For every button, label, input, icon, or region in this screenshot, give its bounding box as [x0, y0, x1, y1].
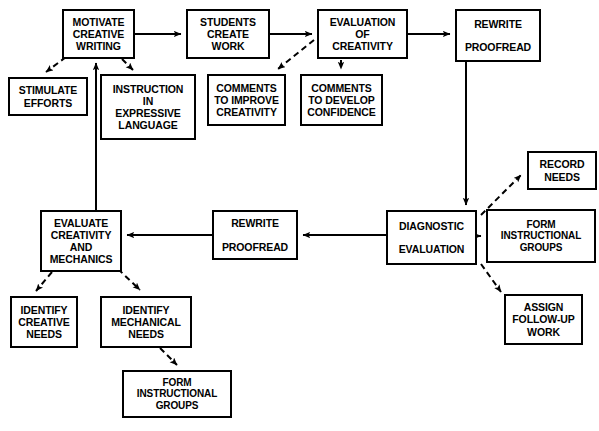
- edge-identify-mech-to-form-groups: [160, 348, 177, 365]
- node-label-line: NEEDS: [128, 328, 164, 340]
- node-label-line: INSTRUCTIONAL: [137, 388, 217, 400]
- edge-motivate-to-instruction: [122, 59, 133, 70]
- node-diagnostic[interactable]: DIAGNOSTICEVALUATION: [386, 210, 477, 265]
- node-label-line: STIMULATE: [19, 84, 77, 96]
- node-label-line: EFFORTS: [24, 97, 72, 109]
- node-label-line: CREATIVITY: [51, 229, 112, 241]
- node-form_groups_b[interactable]: FORMINSTRUCTIONALGROUPS: [122, 370, 232, 418]
- node-label-line: MOTIVATE: [73, 16, 125, 28]
- node-label-line: IN: [143, 95, 153, 107]
- edge-evaluate-to-identify-creative: [36, 272, 52, 291]
- node-assign_work[interactable]: ASSIGNFOLLOW-UPWORK: [504, 294, 583, 345]
- node-label-line: TO IMPROVE: [214, 94, 279, 106]
- flowchart-diagram: MOTIVATECREATIVEWRITINGSTIMULATEEFFORTSI…: [0, 0, 599, 431]
- edge-diagnostic-to-assign-work: [481, 264, 501, 292]
- node-label-line: WRITING: [76, 40, 121, 52]
- node-evaluate_cm[interactable]: EVALUATECREATIVITYANDMECHANICS: [40, 210, 122, 272]
- node-label-line: IDENTIFY: [20, 304, 67, 316]
- node-label-line: EVALUATION: [399, 243, 465, 255]
- edge-evaluation-to-comments-improve: [278, 40, 314, 69]
- node-label-line: FOLLOW-UP: [512, 313, 574, 325]
- node-evaluation[interactable]: EVALUATIONOFCREATIVITY: [317, 9, 408, 59]
- node-label-line: INSTRUCTIONAL: [501, 230, 581, 242]
- node-label-line: PROOFREAD: [222, 241, 288, 253]
- node-label-line: CREATIVE: [73, 28, 125, 40]
- node-label-line: STUDENTS: [200, 16, 256, 28]
- node-label-line: EVALUATE: [54, 217, 108, 229]
- node-label-line: PROOFREAD: [465, 41, 531, 53]
- node-label-line: REWRITE: [474, 18, 522, 30]
- node-label-line: COMMENTS: [311, 82, 371, 94]
- edge-motivate-to-stimulate: [46, 57, 66, 72]
- edge-evaluate-to-identify-mech: [118, 269, 140, 290]
- node-label-line: GROUPS: [520, 242, 563, 254]
- node-label-line: FORM: [526, 219, 555, 231]
- node-label-line: NEEDS: [544, 171, 580, 183]
- node-comments_develop[interactable]: COMMENTSTO DEVELOPCONFIDENCE: [300, 74, 383, 126]
- node-label-line: OF: [355, 28, 369, 40]
- node-label-line: TO DEVELOP: [308, 94, 375, 106]
- node-instruction[interactable]: INSTRUCTIONINEXPRESSIVELANGUAGE: [100, 74, 196, 140]
- node-stimulate[interactable]: STIMULATEEFFORTS: [8, 77, 88, 116]
- node-label-line: CREATIVITY: [216, 106, 277, 118]
- node-label-line: ASSIGN: [524, 301, 564, 313]
- node-label-line: COMMENTS: [216, 82, 276, 94]
- node-label-line: AND: [70, 241, 92, 253]
- node-label-line: RECORD: [540, 158, 585, 170]
- node-identify_mech[interactable]: IDENTIFYMECHANICALNEEDS: [100, 296, 192, 348]
- node-label-line: MECHANICS: [50, 253, 113, 265]
- node-students[interactable]: STUDENTSCREATEWORK: [186, 9, 270, 59]
- node-form_groups_r[interactable]: FORMINSTRUCTIONALGROUPS: [486, 209, 596, 263]
- node-label-line: DIAGNOSTIC: [399, 220, 464, 232]
- node-label-line: IDENTIFY: [122, 304, 169, 316]
- node-label-line: MECHANICAL: [111, 316, 181, 328]
- node-label-line: CREATE: [207, 28, 249, 40]
- node-label-line: CREATIVITY: [332, 40, 393, 52]
- node-label-line: EXPRESSIVE: [115, 107, 181, 119]
- node-label-line: INSTRUCTION: [113, 83, 184, 95]
- node-label-line: WORK: [527, 326, 560, 338]
- node-label-line: CREATIVE: [18, 316, 70, 328]
- node-label-line: EVALUATION: [330, 16, 396, 28]
- node-motivate[interactable]: MOTIVATECREATIVEWRITING: [62, 9, 135, 59]
- node-comments_improve[interactable]: COMMENTSTO IMPROVECREATIVITY: [207, 74, 286, 126]
- node-rewrite_top[interactable]: REWRITEPROOFREAD: [455, 9, 541, 62]
- node-rewrite_mid[interactable]: REWRITEPROOFREAD: [212, 210, 298, 260]
- node-label-line: LANGUAGE: [118, 119, 177, 131]
- node-label-line: REWRITE: [231, 217, 279, 229]
- node-label-line: NEEDS: [26, 328, 62, 340]
- node-label-line: CONFIDENCE: [307, 106, 375, 118]
- node-label-line: GROUPS: [156, 400, 199, 412]
- node-label-line: WORK: [212, 40, 245, 52]
- node-identify_creative[interactable]: IDENTIFYCREATIVENEEDS: [10, 296, 78, 348]
- node-label-line: FORM: [162, 377, 191, 389]
- node-record_needs[interactable]: RECORDNEEDS: [527, 151, 597, 190]
